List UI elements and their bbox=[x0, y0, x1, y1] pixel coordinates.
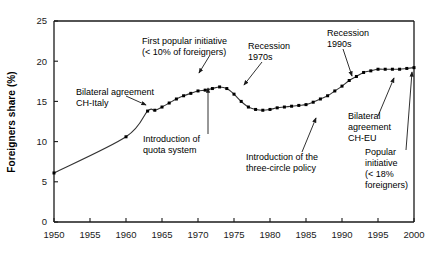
x-tick-label-1960: 1960 bbox=[115, 229, 136, 240]
x-tick-label-1975: 1975 bbox=[223, 229, 244, 240]
data-point-1995 bbox=[377, 68, 380, 71]
annotation-bilateral-ch-eu: Bilateral agreement CH-EU bbox=[348, 111, 392, 143]
x-tick-label-1955: 1955 bbox=[79, 229, 100, 240]
annotation-three-circle-policy: Introduction of the three-circle policy bbox=[246, 152, 318, 173]
data-point-1972 bbox=[211, 87, 214, 90]
annotation-bilateral-ch-eu-line1: Bilateral bbox=[348, 111, 381, 121]
data-point-1998 bbox=[398, 68, 401, 71]
annotation-quota-system-line2: quota system bbox=[143, 145, 197, 155]
annotation-popular-initiative-18-line1: Popular bbox=[365, 147, 396, 157]
data-point-1976 bbox=[240, 100, 243, 103]
annotation-recession-1970s-line1: Recession bbox=[248, 41, 290, 51]
data-point-1979 bbox=[261, 109, 264, 112]
annotation-recession-1990s-line2: 1990s bbox=[327, 39, 352, 49]
data-point-1974 bbox=[225, 87, 228, 90]
x-tick-label-1995: 1995 bbox=[367, 229, 388, 240]
x-tick-label-1980: 1980 bbox=[259, 229, 280, 240]
annotation-first-popular-initiative-line2: (< 10% of foreigners) bbox=[142, 47, 226, 57]
annotation-recession-1990s-line1: Recession bbox=[327, 28, 369, 38]
x-axis-tick-labels: 1950195519601965197019751980198519901995… bbox=[43, 229, 424, 240]
data-point-1970 bbox=[197, 89, 200, 92]
y-tick-label-20: 20 bbox=[36, 56, 47, 67]
data-point-2000 bbox=[413, 66, 416, 69]
annotation-quota-system-line1: Introduction of bbox=[143, 134, 201, 144]
data-point-1984 bbox=[297, 104, 300, 107]
foreigners-share-line-chart: 0510152025 19501955196019651970197519801… bbox=[0, 0, 437, 263]
data-point-1997 bbox=[391, 68, 394, 71]
y-tick-label-0: 0 bbox=[42, 216, 47, 227]
data-point-1999 bbox=[405, 67, 408, 70]
data-point-1987 bbox=[319, 97, 322, 100]
leader-popular-initiative-18 bbox=[406, 72, 412, 150]
data-point-1994 bbox=[369, 69, 372, 72]
annotation-bilateral-ch-italy-line2: CH-Italy bbox=[76, 98, 109, 108]
data-point-1993 bbox=[362, 71, 365, 74]
data-point-1990 bbox=[341, 85, 344, 88]
data-point-1991 bbox=[348, 79, 351, 82]
data-point-1996 bbox=[384, 68, 387, 71]
data-point-1988 bbox=[326, 94, 329, 97]
y-tick-label-10: 10 bbox=[36, 136, 47, 147]
data-point-1960 bbox=[125, 135, 128, 138]
data-point-1986 bbox=[312, 101, 315, 104]
y-axis-tick-labels: 0510152025 bbox=[36, 15, 47, 227]
x-tick-label-1965: 1965 bbox=[151, 229, 172, 240]
leader-recession-1990s bbox=[343, 49, 352, 76]
x-tick-label-2000: 2000 bbox=[403, 229, 424, 240]
leader-first-popular-initiative bbox=[199, 55, 210, 73]
annotation-popular-initiative-18-line2: initiative bbox=[365, 158, 398, 168]
data-point-1950 bbox=[53, 171, 56, 174]
data-point-1981 bbox=[276, 106, 279, 109]
data-point-1980 bbox=[269, 108, 272, 111]
annotation-recession-1970s: Recession 1970s bbox=[248, 41, 290, 62]
data-point-1973 bbox=[218, 85, 221, 88]
x-tick-label-1970: 1970 bbox=[187, 229, 208, 240]
x-tick-label-1990: 1990 bbox=[331, 229, 352, 240]
data-point-1982 bbox=[283, 106, 286, 109]
y-tick-label-5: 5 bbox=[42, 176, 47, 187]
data-point-1967 bbox=[175, 97, 178, 100]
annotation-popular-initiative-18: Popular initiative (< 18% foreigners) bbox=[365, 147, 408, 190]
annotation-three-circle-policy-line1: Introduction of the bbox=[246, 152, 318, 162]
annotation-bilateral-ch-eu-line2: agreement bbox=[348, 122, 392, 132]
annotation-three-circle-policy-line2: three-circle policy bbox=[246, 163, 317, 173]
annotation-bilateral-ch-eu-line3: CH-EU bbox=[348, 133, 377, 143]
data-point-1977 bbox=[247, 106, 250, 109]
data-point-1964 bbox=[153, 109, 156, 112]
data-point-1966 bbox=[168, 102, 171, 105]
annotation-popular-initiative-18-line4: foreigners) bbox=[365, 180, 408, 190]
annotation-quota-system: Introduction of quota system bbox=[143, 134, 201, 155]
annotation-first-popular-initiative-line1: First popular initiative bbox=[142, 36, 227, 46]
data-point-1968 bbox=[182, 94, 185, 97]
data-point-1975 bbox=[233, 93, 236, 96]
leader-bilateral-ch-italy bbox=[126, 96, 146, 105]
annotation-first-popular-initiative: First popular initiative (< 10% of forei… bbox=[142, 36, 227, 57]
x-tick-label-1950: 1950 bbox=[43, 229, 64, 240]
data-point-1985 bbox=[305, 103, 308, 106]
data-point-1983 bbox=[290, 105, 293, 108]
annotation-labels: Bilateral agreement CH-Italy First popul… bbox=[76, 28, 408, 190]
y-tick-label-25: 25 bbox=[36, 15, 47, 26]
annotation-bilateral-ch-italy-line1: Bilateral agreement bbox=[76, 87, 155, 97]
data-point-1965 bbox=[161, 106, 164, 109]
data-point-1992 bbox=[355, 75, 358, 78]
leader-recession-1970s bbox=[244, 62, 262, 85]
data-point-1969 bbox=[189, 92, 192, 95]
data-point-1971 bbox=[204, 89, 207, 92]
annotation-recession-1970s-line2: 1970s bbox=[248, 52, 273, 62]
chart-container: 0510152025 19501955196019651970197519801… bbox=[0, 0, 437, 263]
x-tick-label-1985: 1985 bbox=[295, 229, 316, 240]
data-point-1963 bbox=[146, 110, 149, 113]
annotation-bilateral-ch-italy: Bilateral agreement CH-Italy bbox=[76, 87, 155, 108]
annotation-popular-initiative-18-line3: (< 18% bbox=[365, 169, 394, 179]
leader-three-circle-policy bbox=[302, 118, 316, 152]
data-point-1989 bbox=[333, 89, 336, 92]
data-point-1978 bbox=[254, 108, 257, 111]
annotation-recession-1990s: Recession 1990s bbox=[327, 28, 369, 49]
y-axis-title: Foreigners share (%) bbox=[6, 71, 17, 172]
y-tick-label-15: 15 bbox=[36, 96, 47, 107]
